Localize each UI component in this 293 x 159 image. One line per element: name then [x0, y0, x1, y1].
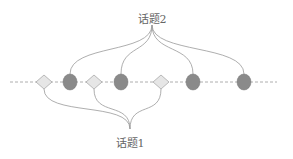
circle-node: [63, 74, 77, 90]
topic1-edge: [44, 89, 130, 129]
topic2-edge: [70, 25, 152, 74]
timeline-nodes: [36, 74, 251, 90]
diamond-node: [86, 75, 102, 89]
circle-node: [186, 74, 200, 90]
topic2-edge: [121, 25, 152, 74]
circle-node: [237, 74, 251, 90]
topic1-edge: [130, 89, 161, 129]
diamond-node: [36, 75, 52, 89]
topic1-edge: [94, 89, 130, 129]
topic2-edge: [152, 25, 244, 74]
topic1-label: 话题1: [116, 134, 145, 150]
circle-node: [114, 74, 128, 90]
topic2-edge: [152, 25, 193, 74]
topic2-label: 话题2: [138, 10, 167, 26]
diamond-node: [153, 75, 169, 89]
